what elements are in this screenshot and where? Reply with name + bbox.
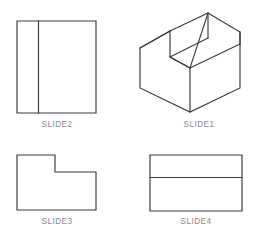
drawing-sheet: SLIDE2SLIDE1SLIDE3SLIDE4	[0, 0, 258, 238]
view-outline-slide4	[150, 155, 242, 211]
orthographic-views-canvas: SLIDE2SLIDE1SLIDE3SLIDE4	[0, 0, 258, 238]
view-caption-slide1: SLIDE1	[184, 120, 215, 129]
view-slide3[interactable]: SLIDE3	[17, 155, 96, 226]
view-slide4[interactable]: SLIDE4	[150, 155, 242, 226]
view-edge-slide1-1	[170, 13, 208, 31]
view-caption-slide3: SLIDE3	[42, 217, 73, 226]
view-slide1[interactable]: SLIDE1	[140, 13, 240, 129]
view-outline-slide3	[17, 155, 96, 210]
view-outline-slide2	[17, 21, 96, 113]
view-slide2[interactable]: SLIDE2	[17, 21, 96, 129]
view-caption-slide4: SLIDE4	[181, 217, 212, 226]
view-caption-slide2: SLIDE2	[42, 120, 73, 129]
